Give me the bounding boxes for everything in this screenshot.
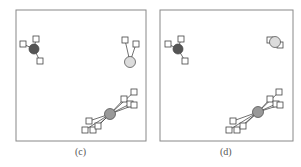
member-square-icon	[20, 41, 26, 47]
member-square-icon	[37, 58, 43, 64]
member-square-icon	[82, 127, 88, 133]
centroid-circle-icon	[29, 44, 39, 54]
member-square-icon	[230, 118, 236, 124]
cluster-figure	[0, 0, 301, 167]
member-square-icon	[182, 58, 188, 64]
caption-c: (c)	[75, 146, 86, 157]
member-square-icon	[131, 89, 137, 95]
member-square-icon	[133, 41, 139, 47]
member-square-icon	[234, 127, 240, 133]
centroid-circle-icon	[125, 57, 136, 68]
centroid-circle-icon	[173, 44, 183, 54]
member-square-icon	[165, 41, 171, 47]
member-square-icon	[95, 123, 101, 129]
member-square-icon	[86, 118, 92, 124]
member-square-icon	[277, 102, 283, 108]
member-square-icon	[276, 89, 282, 95]
panel-frame	[160, 10, 293, 141]
centroid-circle-icon	[270, 37, 281, 48]
member-square-icon	[121, 96, 127, 102]
panel-c	[16, 10, 146, 141]
panel-frame	[16, 10, 146, 141]
member-square-icon	[178, 36, 184, 42]
member-square-icon	[240, 123, 246, 129]
member-square-icon	[226, 127, 232, 133]
member-square-icon	[122, 37, 128, 43]
member-square-icon	[267, 96, 273, 102]
centroid-circle-icon	[253, 107, 264, 118]
member-square-icon	[131, 102, 137, 108]
centroid-circle-icon	[105, 109, 116, 120]
member-square-icon	[33, 36, 39, 42]
panel-d	[160, 10, 293, 141]
caption-d: (d)	[220, 146, 232, 157]
